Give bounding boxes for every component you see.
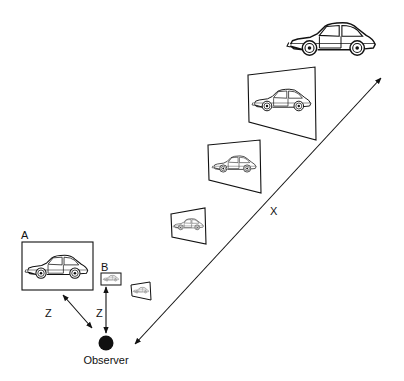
label-a: A — [21, 229, 29, 241]
distance-arrow-z-a — [63, 295, 92, 328]
frame-A — [22, 242, 93, 290]
frame-perspective-3 — [248, 67, 316, 140]
size-distance-diagram: A B Z Z X Observer — [0, 0, 404, 381]
label-observer: Observer — [83, 354, 129, 366]
car-real-icon — [287, 23, 375, 55]
label-z-a: Z — [45, 307, 52, 319]
label-z-b: Z — [96, 307, 103, 319]
label-b: B — [101, 261, 108, 273]
frame-perspective-2 — [208, 140, 261, 193]
observer-icon — [99, 336, 114, 351]
frame-perspective-1 — [171, 208, 206, 244]
frame-perspective-4 — [131, 282, 151, 300]
label-x: X — [270, 205, 278, 217]
frame-B — [101, 273, 121, 285]
